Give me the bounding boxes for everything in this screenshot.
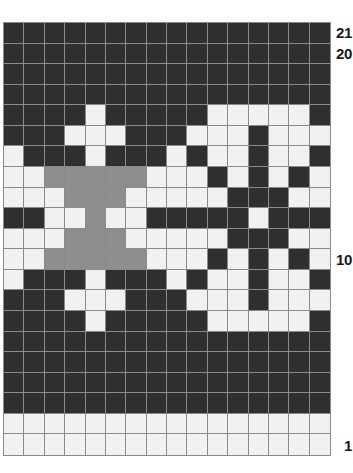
chart-cell <box>126 249 146 270</box>
chart-cell <box>310 167 330 188</box>
chart-cell <box>289 352 309 373</box>
chart-cell <box>187 311 207 332</box>
row-number-label: 21 <box>336 25 352 40</box>
chart-cell <box>187 290 207 311</box>
chart-cell <box>249 208 269 229</box>
chart-cell <box>310 290 330 311</box>
chart-cell <box>269 64 289 85</box>
chart-cell <box>310 249 330 270</box>
chart-cell <box>106 393 126 414</box>
chart-cell <box>289 44 309 65</box>
chart-cell <box>167 434 187 455</box>
chart-cell <box>208 64 228 85</box>
chart-cell <box>228 188 248 209</box>
chart-cell <box>86 188 106 209</box>
chart-cell <box>289 434 309 455</box>
chart-cell <box>45 85 65 106</box>
chart-cell <box>310 188 330 209</box>
chart-cell <box>45 167 65 188</box>
chart-cell <box>126 414 146 435</box>
chart-cell <box>65 373 85 394</box>
chart-cell <box>187 167 207 188</box>
chart-cell <box>45 146 65 167</box>
chart-cell <box>310 23 330 44</box>
chart-cell <box>45 23 65 44</box>
chart-cell <box>126 270 146 291</box>
chart-cell <box>167 229 187 250</box>
chart-cell <box>65 23 85 44</box>
chart-cell <box>106 352 126 373</box>
chart-cell <box>228 208 248 229</box>
chart-cell <box>228 332 248 353</box>
chart-cell <box>147 311 167 332</box>
chart-cell <box>24 146 44 167</box>
chart-cell <box>65 167 85 188</box>
chart-cell <box>167 105 187 126</box>
chart-cell <box>106 44 126 65</box>
chart-cell <box>289 208 309 229</box>
chart-cell <box>208 373 228 394</box>
chart-cell <box>208 229 228 250</box>
chart-cell <box>126 332 146 353</box>
chart-cell <box>228 414 248 435</box>
chart-cell <box>106 85 126 106</box>
chart-cell <box>45 208 65 229</box>
chart-cell <box>208 311 228 332</box>
chart-cell <box>106 23 126 44</box>
chart-cell <box>187 270 207 291</box>
chart-cell <box>289 85 309 106</box>
chart-cell <box>126 44 146 65</box>
chart-cell <box>147 44 167 65</box>
chart-cell <box>4 208 24 229</box>
chart-cell <box>310 434 330 455</box>
chart-cell <box>24 85 44 106</box>
chart-cell <box>147 290 167 311</box>
chart-cell <box>86 105 106 126</box>
chart-cell <box>187 208 207 229</box>
chart-cell <box>167 167 187 188</box>
chart-cell <box>269 290 289 311</box>
chart-cell <box>4 414 24 435</box>
chart-cell <box>187 229 207 250</box>
chart-cell <box>86 290 106 311</box>
chart-cell <box>208 270 228 291</box>
chart-cell <box>65 126 85 147</box>
chart-cell <box>269 208 289 229</box>
chart-cell <box>249 311 269 332</box>
chart-cell <box>249 414 269 435</box>
chart-cell <box>249 393 269 414</box>
chart-cell <box>126 64 146 85</box>
chart-cell <box>228 85 248 106</box>
chart-cell <box>65 352 85 373</box>
chart-cell <box>86 23 106 44</box>
chart-cell <box>187 146 207 167</box>
chart-cell <box>45 229 65 250</box>
chart-cell <box>147 126 167 147</box>
chart-cell <box>310 311 330 332</box>
chart-cell <box>289 105 309 126</box>
chart-cell <box>187 64 207 85</box>
chart-cell <box>4 311 24 332</box>
chart-cell <box>228 44 248 65</box>
chart-cell <box>269 229 289 250</box>
chart-cell <box>65 64 85 85</box>
chart-cell <box>269 332 289 353</box>
chart-cell <box>310 352 330 373</box>
chart-cell <box>4 434 24 455</box>
chart-cell <box>106 126 126 147</box>
chart-cell <box>310 208 330 229</box>
chart-cell <box>24 393 44 414</box>
chart-cell <box>269 167 289 188</box>
chart-cell <box>249 434 269 455</box>
chart-cell <box>106 414 126 435</box>
chart-cell <box>187 434 207 455</box>
chart-cell <box>45 188 65 209</box>
chart-cell <box>4 393 24 414</box>
chart-cell <box>167 270 187 291</box>
chart-cell <box>310 373 330 394</box>
chart-cell <box>4 146 24 167</box>
chart-cell <box>228 23 248 44</box>
chart-cell <box>45 352 65 373</box>
chart-cell <box>208 167 228 188</box>
chart-cell <box>65 270 85 291</box>
